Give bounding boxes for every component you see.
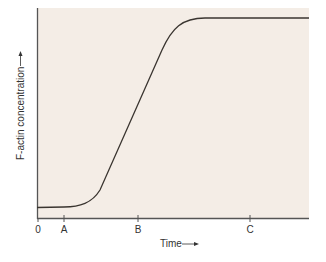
x-arrow-icon [182, 242, 199, 246]
tick-label-c: C [246, 224, 253, 235]
y-arrow-icon [19, 51, 23, 66]
x-axis-label: Time [160, 238, 182, 249]
tick-label-a: A [61, 224, 68, 235]
tick-label-0: 0 [35, 224, 41, 235]
y-axis-label: F-actin concentration [15, 67, 26, 160]
polymerization-chart: 0 A B C Time F-actin concentration [0, 0, 326, 262]
tick-label-b: B [135, 224, 142, 235]
plot-area [37, 8, 309, 218]
